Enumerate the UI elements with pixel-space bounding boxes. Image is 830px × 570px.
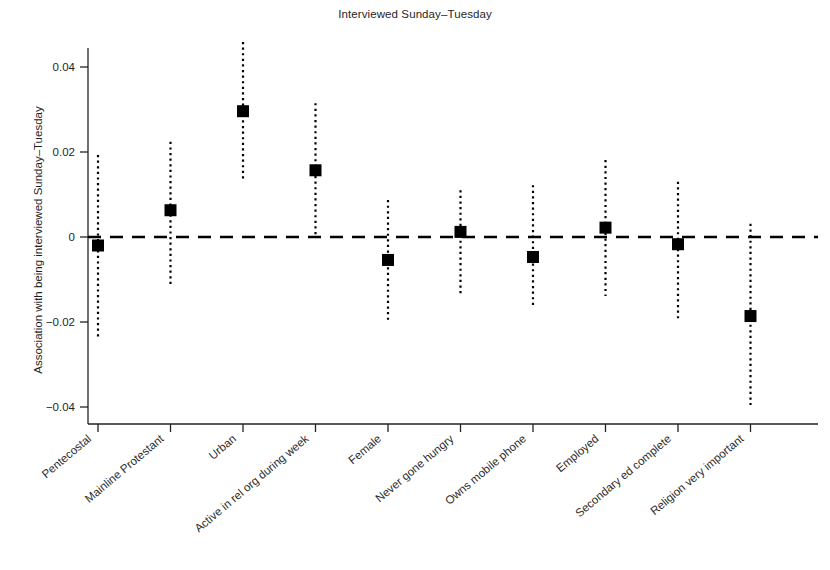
y-tick-label: 0 xyxy=(69,231,75,243)
x-axis-labels: PentecostalMainline ProtestantUrbanActiv… xyxy=(40,432,747,535)
data-point xyxy=(600,222,612,234)
x-axis-label: Owns mobile phone xyxy=(443,432,529,507)
data-point-markers xyxy=(92,105,757,322)
x-axis-label: Female xyxy=(346,432,383,466)
error-bars xyxy=(98,42,751,405)
x-axis-label: Pentecostal xyxy=(40,432,94,480)
x-axis-label: Never gone hungry xyxy=(373,432,456,504)
x-axis-label: Mainline Protestant xyxy=(83,432,167,505)
data-point xyxy=(310,164,322,176)
plot-area: 0.040.020−0.02−0.04 PentecostalMainline … xyxy=(0,0,830,570)
x-axis-label: Employed xyxy=(554,432,601,474)
x-axis-ticks xyxy=(98,424,751,432)
y-tick-label: 0.02 xyxy=(53,146,75,158)
x-axis-label: Urban xyxy=(207,432,239,461)
data-point xyxy=(165,204,177,216)
data-point xyxy=(745,310,757,322)
y-tick-label: −0.02 xyxy=(46,316,75,328)
data-point xyxy=(382,254,394,266)
data-point xyxy=(237,105,249,117)
data-point xyxy=(92,240,104,252)
data-point xyxy=(527,251,539,263)
chart-figure: Interviewed Sunday–Tuesday Association w… xyxy=(0,0,830,570)
data-point xyxy=(672,238,684,250)
y-axis-ticks: 0.040.020−0.02−0.04 xyxy=(46,61,88,413)
x-axis-label: Active in rel org during week xyxy=(192,432,311,534)
data-point xyxy=(455,226,467,238)
y-tick-label: −0.04 xyxy=(46,401,76,413)
y-tick-label: 0.04 xyxy=(53,61,76,73)
